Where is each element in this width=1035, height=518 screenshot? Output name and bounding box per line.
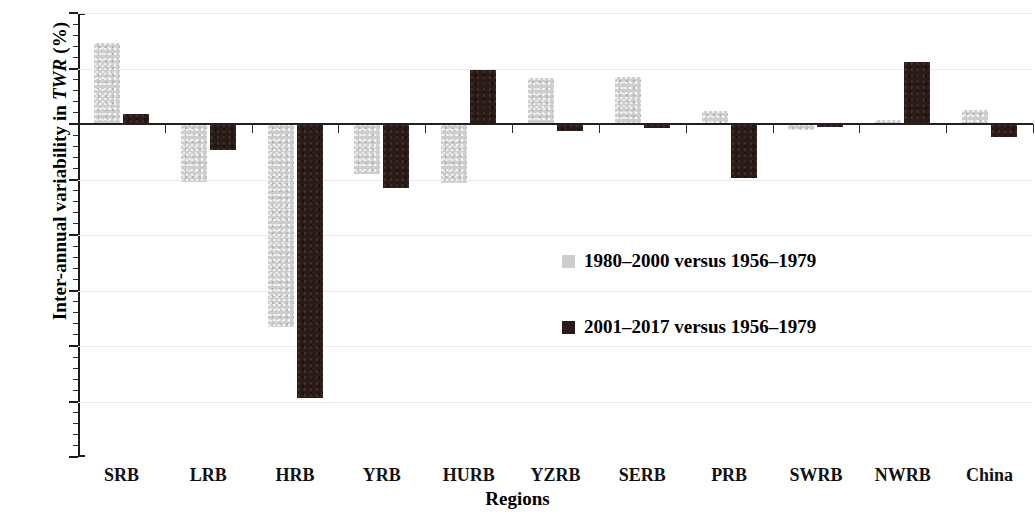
gridline [78,235,1033,236]
chart-figure: Inter-annual variability in TWR (%) Regi… [0,0,1035,518]
y-tick-minor [73,423,78,424]
y-tick-major [69,123,78,125]
legend-label: 2001–2017 versus 1956–1979 [584,316,816,338]
y-tick-major [69,345,78,347]
y-tick-minor [73,46,78,47]
bar [470,70,496,124]
y-tick-minor [73,157,78,158]
y-tick-minor [73,57,78,58]
gridline [78,346,1033,347]
bar [441,124,467,183]
bar [991,124,1017,137]
x-tick-label: PRB [686,465,773,486]
y-tick-minor [73,368,78,369]
y-axis-title-italic: TWR [49,59,70,100]
x-tick [425,124,426,133]
y-tick-major [69,456,78,458]
bar [615,77,641,124]
y-tick-major [69,401,78,403]
x-tick-label: YRB [338,465,425,486]
x-tick [686,124,687,133]
y-tick-minor [73,246,78,247]
x-tick-label: LRB [165,465,252,486]
y-axis-cap-bottom [78,455,85,457]
y-tick-minor [73,79,78,80]
x-tick-label: YZRB [512,465,599,486]
legend-swatch [562,255,575,268]
y-tick-minor [73,390,78,391]
gridline [78,291,1033,292]
x-axis-title: Regions [0,488,1035,510]
x-tick-label: HRB [252,465,339,486]
x-tick [252,124,253,133]
gridline [78,13,1033,14]
y-tick-minor [73,301,78,302]
x-tick-label: SRB [78,465,165,486]
y-tick-major [69,68,78,70]
gridline [78,180,1033,181]
x-tick [512,124,513,133]
legend-swatch [562,321,575,334]
y-tick-minor [73,35,78,36]
y-tick-minor [73,190,78,191]
y-tick-minor [73,412,78,413]
bar [904,62,930,124]
bar [702,111,728,124]
y-tick-major [69,290,78,292]
y-tick-minor [73,379,78,380]
y-tick-minor [73,101,78,102]
bar [354,124,380,174]
y-tick-minor [73,268,78,269]
y-axis-title: Inter-annual variability in TWR (%) [49,0,71,381]
bar [962,110,988,124]
x-tick-label: NWRB [859,465,946,486]
bar [181,124,207,182]
gridline [78,402,1033,403]
y-tick-minor [73,357,78,358]
y-tick-minor [73,168,78,169]
legend-label: 1980–2000 versus 1956–1979 [584,250,816,272]
bar [297,124,323,398]
legend-item[interactable]: 2001–2017 versus 1956–1979 [562,316,816,338]
x-tick [773,124,774,133]
gridline [78,69,1033,70]
y-tick-minor [73,201,78,202]
bar [94,43,120,124]
y-tick-minor [73,334,78,335]
bar [731,124,757,178]
x-tick-label: China [946,465,1033,486]
y-tick-minor [73,445,78,446]
x-tick [338,124,339,133]
x-tick-label: HURB [425,465,512,486]
y-tick-minor [73,312,78,313]
y-tick-major [69,234,78,236]
y-tick-minor [73,323,78,324]
y-tick-major [69,179,78,181]
y-tick-minor [73,279,78,280]
x-tick-label: SERB [599,465,686,486]
x-tick [1033,124,1034,133]
bar [268,124,294,327]
y-tick-minor [73,212,78,213]
bar [210,124,236,150]
x-tick [599,124,600,133]
bar [528,78,554,124]
y-tick-minor [73,24,78,25]
y-tick-minor [73,90,78,91]
y-tick-minor [73,223,78,224]
y-tick-minor [73,112,78,113]
plot-area: 20100-10-20-30-40-50-60 SRBLRBHRBYRBHURB… [78,13,1033,457]
y-axis-title-prefix: Inter-annual variability in [49,100,70,320]
legend-item[interactable]: 1980–2000 versus 1956–1979 [562,250,816,272]
bar [383,124,409,188]
y-tick-minor [73,434,78,435]
bar [557,124,583,131]
y-tick-minor [73,135,78,136]
y-axis-title-suffix: (%) [49,22,70,59]
zero-baseline [78,123,1033,125]
x-tick [946,124,947,133]
x-tick-label: SWRB [773,465,860,486]
y-tick-minor [73,146,78,147]
x-tick [165,124,166,133]
y-tick-major [69,12,78,14]
